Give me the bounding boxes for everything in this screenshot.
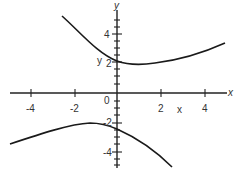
y-tick-label: 2 (106, 58, 112, 69)
x-tick-label: 2 (158, 103, 164, 114)
hyperbola-graph: y x 0 -4 -2 2 4 4 2 -2 -4 y x (0, 0, 243, 177)
y-axis-label: y (113, 0, 120, 11)
x-tick-label: 4 (202, 103, 208, 114)
y-tick-label: -4 (103, 147, 112, 158)
upper-branch-curve (62, 16, 225, 64)
y-tick-label: 4 (104, 29, 110, 40)
x-axis-label: x (227, 87, 234, 98)
y-marker-annotation: y (97, 55, 102, 66)
origin-label: 0 (104, 95, 110, 106)
x-marker-annotation: x (177, 104, 182, 115)
x-tick-label: -4 (26, 103, 35, 114)
y-tick-label: -2 (103, 117, 112, 128)
x-tick-label: -2 (70, 103, 79, 114)
lower-branch-curve (10, 123, 172, 167)
